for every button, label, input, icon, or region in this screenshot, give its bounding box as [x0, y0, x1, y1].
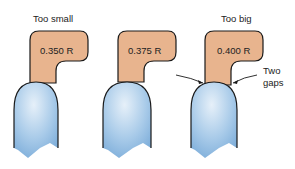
- part-small: [14, 82, 58, 158]
- gap-arrow-right: [233, 75, 257, 84]
- gauge-too-small: 0.350 R: [30, 31, 88, 83]
- gauge-label-0400: 0.400 R: [217, 45, 250, 56]
- gauge-correct: 0.375 R: [118, 31, 176, 82]
- annotation-two: Two: [263, 65, 280, 76]
- annotation-gaps: gaps: [263, 77, 284, 88]
- gap-arrow-left: [176, 75, 203, 84]
- label-too-big: Too big: [221, 13, 252, 24]
- label-too-small: Too small: [33, 13, 73, 24]
- gauge-too-big: 0.400 R: [205, 31, 263, 85]
- radius-gauge-diagram: 0.350 R 0.375 R 0.400 R: [0, 0, 295, 169]
- gauge-label-0375: 0.375 R: [128, 45, 161, 56]
- part-correct: [103, 82, 151, 158]
- gauge-label-0350: 0.350 R: [40, 45, 73, 56]
- part-big: [191, 82, 237, 158]
